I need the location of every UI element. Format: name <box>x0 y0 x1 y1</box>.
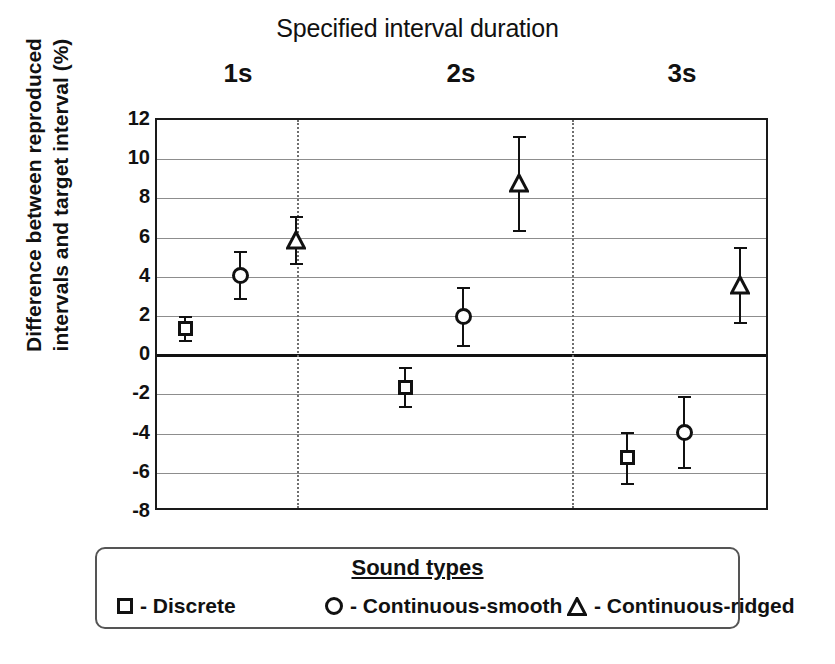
error-bar-cap-lower <box>513 230 526 232</box>
y-tick-label: -2 <box>110 382 150 402</box>
circle-marker-icon <box>232 267 249 284</box>
triangle-marker-icon <box>567 597 587 616</box>
group-label-1s: 1s <box>203 58 273 89</box>
zero-line <box>157 354 766 357</box>
square-marker-icon <box>178 321 193 336</box>
error-bar-cap-upper <box>399 367 412 369</box>
triangle-marker-icon <box>730 275 750 295</box>
y-axis-tick-labels: 121086420-2-4-6-8 <box>105 0 150 560</box>
plot-area <box>155 118 768 510</box>
triangle-marker-icon <box>286 230 306 250</box>
error-bar-cap-upper <box>234 251 247 253</box>
legend-item-square[interactable]: - Discrete <box>117 589 236 623</box>
gridline <box>157 198 766 199</box>
legend-item-label: - Continuous-ridged <box>594 594 795 618</box>
error-bar-cap-lower <box>399 406 412 408</box>
error-bar-cap-lower <box>678 467 691 469</box>
error-bar-cap-upper <box>290 216 303 218</box>
gridline <box>157 473 766 474</box>
y-tick-label: 0 <box>110 343 150 363</box>
circle-marker-icon <box>676 424 693 441</box>
error-bar-cap-lower <box>621 483 634 485</box>
y-tick-label: 10 <box>110 147 150 167</box>
gridline <box>157 434 766 435</box>
error-bar-cap-lower <box>234 298 247 300</box>
group-label-2s: 2s <box>426 58 496 89</box>
error-bar-cap-upper <box>621 432 634 434</box>
circle-marker-icon <box>455 308 472 325</box>
group-separator-2 <box>572 120 574 508</box>
legend-box: Sound types - Discrete- Continuous-smoot… <box>95 547 740 629</box>
legend-item-circle[interactable]: - Continuous-smooth <box>325 589 562 623</box>
gridline <box>157 394 766 395</box>
legend-title: Sound types <box>97 555 738 581</box>
y-axis-label-line-2: intervals and target interval (%) <box>47 0 74 395</box>
chart-figure: Specified interval duration 1s 2s 3s Dif… <box>0 0 835 664</box>
error-bar-cap-upper <box>513 136 526 138</box>
triangle-marker-icon <box>509 173 529 193</box>
error-bar-cap-upper <box>678 396 691 398</box>
group-label-3s: 3s <box>647 58 717 89</box>
y-tick-label: 8 <box>110 186 150 206</box>
square-marker-icon <box>398 380 413 395</box>
error-bar-cap-lower <box>734 322 747 324</box>
y-tick-label: 12 <box>110 108 150 128</box>
y-tick-label: -6 <box>110 461 150 481</box>
y-tick-label: 2 <box>110 304 150 324</box>
error-bar-cap-upper <box>457 287 470 289</box>
y-tick-label: 4 <box>110 265 150 285</box>
legend-item-label: - Discrete <box>140 594 236 618</box>
gridline <box>157 238 766 239</box>
y-tick-label: -4 <box>110 422 150 442</box>
error-bar-cap-lower <box>457 345 470 347</box>
legend-items: - Discrete- Continuous-smooth- Continuou… <box>97 589 738 623</box>
error-bar-cap-lower <box>290 263 303 265</box>
y-tick-label: 6 <box>110 226 150 246</box>
circle-marker-icon <box>325 597 343 615</box>
group-separator-1 <box>297 120 299 508</box>
y-axis-label: Difference between reproduced intervals … <box>20 0 80 395</box>
y-tick-label: -8 <box>110 500 150 520</box>
square-marker-icon <box>620 450 635 465</box>
square-marker-icon <box>117 598 133 614</box>
y-axis-label-line-1: Difference between reproduced <box>20 0 47 395</box>
legend-item-label: - Continuous-smooth <box>350 594 562 618</box>
error-bar-cap-upper <box>179 316 192 318</box>
error-bar-cap-lower <box>179 340 192 342</box>
gridline <box>157 159 766 160</box>
legend-item-triangle[interactable]: - Continuous-ridged <box>567 589 795 623</box>
error-bar-cap-upper <box>734 247 747 249</box>
